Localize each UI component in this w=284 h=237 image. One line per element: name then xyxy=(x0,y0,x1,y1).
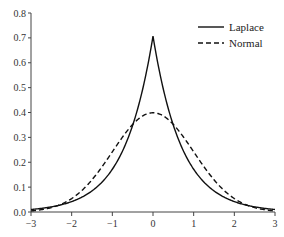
y-tick-label: 0.1 xyxy=(14,182,27,193)
y-tick-label: 0.2 xyxy=(14,157,27,168)
series-laplace-line xyxy=(31,36,275,209)
legend-label-normal: Normal xyxy=(229,37,263,49)
legend-label-laplace: Laplace xyxy=(229,21,264,33)
density-chart: 0.00.10.20.30.40.50.60.70.8−3−2−10123 La… xyxy=(0,0,284,237)
y-tick-label: 0.4 xyxy=(14,107,27,118)
x-tick-label: −3 xyxy=(26,218,37,229)
x-tick-label: −2 xyxy=(66,218,77,229)
x-tick-label: 2 xyxy=(232,218,237,229)
y-tick-label: 0.6 xyxy=(14,57,27,68)
y-tick-label: 0.8 xyxy=(14,8,27,19)
y-tick-label: 0.7 xyxy=(14,32,27,43)
x-tick-label: 3 xyxy=(273,218,278,229)
series-normal-line xyxy=(31,113,275,211)
x-tick-label: 0 xyxy=(151,218,156,229)
plot-area xyxy=(31,36,275,211)
x-tick-label: −1 xyxy=(107,218,118,229)
y-tick-label: 0.3 xyxy=(14,132,27,143)
legend: Laplace Normal xyxy=(198,21,264,49)
x-tick-label: 1 xyxy=(191,218,196,229)
y-tick-label: 0.0 xyxy=(14,207,27,218)
y-tick-label: 0.5 xyxy=(14,82,27,93)
